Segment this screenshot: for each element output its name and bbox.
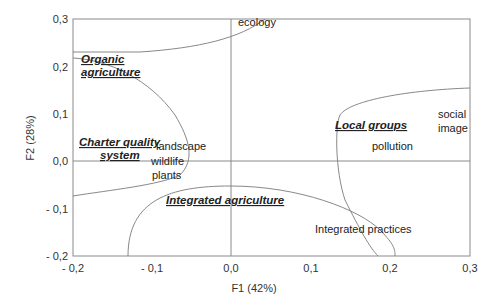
boundary-ecology	[73, 19, 265, 52]
x-tick: 0,2	[382, 262, 397, 274]
x-tick: 0,1	[303, 262, 318, 274]
y-tick: 0,3	[53, 13, 68, 25]
group-label-local: Local groups	[335, 119, 407, 131]
var-label-plants: plants	[152, 169, 182, 181]
x-tick: - 0,1	[141, 262, 163, 274]
var-label-pollution: pollution	[372, 140, 413, 152]
chart: 0,3 0,2 0,1 0,0 - 0,1 - 0,2 - 0,2 - 0,1 …	[0, 0, 501, 307]
group-label-organic: Organic	[81, 53, 125, 65]
var-label-ecology: ecology	[238, 16, 276, 28]
group-label-charter: system	[100, 149, 140, 161]
y-tick: 0,2	[53, 61, 68, 73]
x-tick: 0,3	[462, 262, 477, 274]
group-label-charter: Charter quality	[79, 136, 161, 148]
var-label-practices: Integrated practices	[315, 223, 412, 235]
var-label-image: image	[438, 122, 468, 134]
x-tick: 0,0	[223, 262, 238, 274]
y-tick: 0,1	[53, 108, 68, 120]
var-label-wildlife: wildlife	[150, 155, 184, 167]
var-label-social: social	[438, 108, 466, 120]
y-tick: - 0,1	[46, 203, 68, 215]
group-label-organic: agriculture	[81, 66, 141, 78]
x-tick: - 0,2	[62, 262, 84, 274]
y-tick: 0,0	[53, 155, 68, 167]
group-label-integrated: Integrated agriculture	[166, 194, 285, 206]
x-axis-label: F1 (42%)	[231, 282, 276, 294]
y-tick: - 0,2	[46, 250, 68, 262]
y-axis-label: F2 (28%)	[24, 115, 36, 160]
var-label-landscape: landscape	[156, 140, 206, 152]
